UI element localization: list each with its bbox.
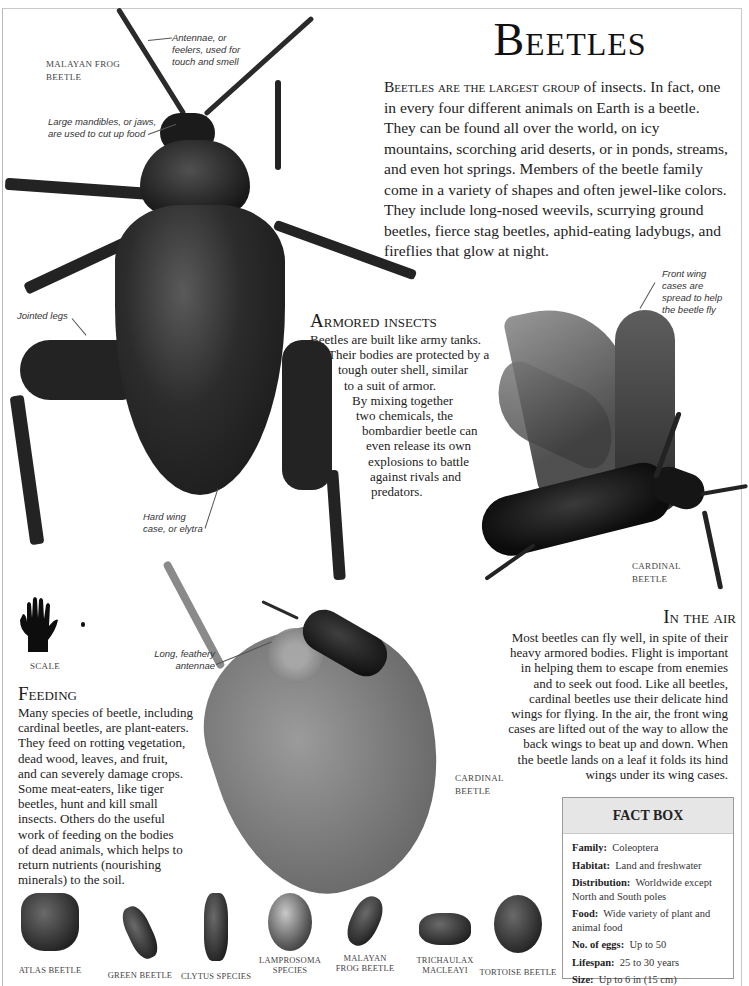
- malayan-frog-beetle-label: MALAYAN FROG BEETLE: [46, 58, 120, 84]
- lamprosoma-species-icon: [268, 893, 312, 951]
- scale-label: SCALE: [30, 660, 60, 673]
- cardinal-beetle-flying-label: CARDINAL BEETLE: [632, 560, 681, 586]
- fact-family: Family: Coleoptera: [572, 841, 725, 855]
- callout-feathery-antennae: Long, feathery antennae: [155, 648, 215, 672]
- cardinal-beetle-leaf-label: CARDINAL BEETLE: [455, 772, 504, 798]
- in-the-air-heading: In the air: [560, 606, 736, 628]
- hand-scale-icon: [18, 596, 58, 652]
- green-beetle-icon: [118, 903, 163, 963]
- clytus-species-icon: [204, 893, 228, 961]
- scale-beetle-dot: [81, 622, 85, 627]
- in-the-air-text: Most beetles can fly well, in spite of t…: [480, 630, 728, 782]
- callout-antennae: Antennae, or feelers, used for touch and…: [172, 32, 240, 68]
- callout-mandibles: Large mandibles, or jaws, are used to cu…: [48, 116, 156, 140]
- callout-front-wing: Front wing cases are spread to help the …: [662, 268, 722, 316]
- fact-box-heading: FACT BOX: [563, 798, 733, 834]
- armored-insects-text: Beetles are built like army tanks. Their…: [310, 332, 530, 499]
- atlas-beetle-icon: [21, 893, 79, 951]
- malayan-frog-beetle-icon: [341, 892, 388, 951]
- page-title: Beetles: [450, 12, 690, 68]
- beetle-thorax: [140, 140, 250, 215]
- species-atlas-beetle: ATLAS BEETLE: [10, 893, 90, 975]
- fact-box: FACT BOX Family: Coleoptera Habitat: Lan…: [562, 797, 734, 979]
- species-lamprosoma: LAMPROSOMA SPECIES: [255, 893, 325, 975]
- fact-eggs: No. of eggs: Up to 50: [572, 938, 725, 952]
- species-trichaulax: TRICHAULAX MACLEAYI: [405, 913, 485, 975]
- fact-distribution: Distribution: Worldwide except North and…: [572, 876, 725, 903]
- leg-hind-left: [20, 340, 130, 400]
- armored-insects-heading: Armored insects: [310, 310, 437, 332]
- feeding-heading: Feeding: [18, 683, 77, 705]
- species-clytus: CLYTUS SPECIES: [176, 893, 256, 981]
- species-tortoise-beetle: TORTOISE BEETLE: [478, 895, 558, 977]
- species-malayan-frog-beetle: MALAYAN FROG BEETLE: [330, 895, 400, 973]
- fact-food: Food: Wide variety of plant and animal f…: [572, 907, 725, 934]
- intro-paragraph: Beetles are the largest group of insects…: [384, 77, 728, 262]
- intro-text: of insects. In fact, one in every four d…: [384, 78, 728, 259]
- feeding-text: Many species of beetle, including cardin…: [18, 705, 218, 887]
- fact-habitat: Habitat: Land and freshwater: [572, 859, 725, 873]
- species-green-beetle: GREEN BEETLE: [100, 905, 180, 980]
- trichaulax-macleayi-icon: [419, 913, 471, 945]
- leg-top-right: [275, 80, 281, 170]
- fact-size: Size: Up to 6 in (15 cm): [572, 973, 725, 986]
- intro-lead: Beetles are the largest group: [384, 78, 580, 95]
- fact-lifespan: Lifespan: 25 to 30 years: [572, 956, 725, 970]
- callout-jointed-legs: Jointed legs: [17, 310, 68, 322]
- callout-wing-case: Hard wing case, or elytra: [143, 511, 203, 535]
- tortoise-beetle-icon: [494, 895, 542, 953]
